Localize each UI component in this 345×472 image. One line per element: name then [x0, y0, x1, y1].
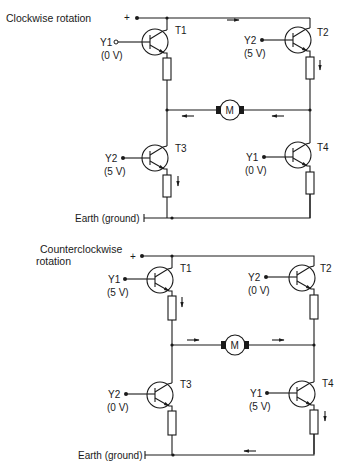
resistor-icon: [168, 411, 176, 435]
t3-label: T3: [180, 379, 192, 390]
input-terminal-icon: [262, 155, 266, 159]
ground-rail: [144, 194, 310, 218]
t3-voltage-label: (5 V): [104, 166, 126, 177]
transistor-symbol-icon: [147, 267, 173, 293]
t3-label: T3: [175, 143, 187, 154]
transistor-symbol-icon: [289, 381, 315, 407]
transistor-symbol-icon: [147, 382, 173, 408]
transistor-t3: T3 Y2 (5 V): [104, 110, 187, 218]
motor: M: [221, 335, 249, 355]
t2-label: T2: [320, 263, 332, 274]
supply-plus-label: +: [130, 251, 136, 262]
resistor-icon: [163, 175, 171, 197]
transistor-t4: T4 Y1 (5 V): [249, 345, 334, 454]
transistor-t1: T1 Y1 (5 V): [107, 256, 192, 345]
resistor-icon: [306, 57, 314, 79]
t4-voltage-label: (0 V): [245, 165, 267, 176]
supply-plus-label: +: [124, 12, 130, 23]
t4-label: T4: [317, 142, 329, 153]
ground-label: Earth (ground): [78, 450, 142, 461]
transistor-t4: T4 Y1 (0 V): [245, 110, 329, 218]
resistor-icon: [310, 410, 318, 434]
ground-rail: [145, 434, 314, 455]
resistor-icon: [310, 295, 318, 319]
supply-rail: [142, 256, 314, 266]
t2-label: T2: [317, 27, 329, 38]
t4-voltage-label: (5 V): [249, 401, 271, 412]
motor-label: M: [231, 340, 239, 351]
t4-label: T4: [322, 378, 334, 389]
t4-input-label: Y1: [246, 152, 259, 163]
t4-input-label: Y1: [250, 388, 263, 399]
t1-label: T1: [175, 25, 187, 36]
h-bridge-diagrams: Clockwise rotation + T1 Y1 (0 V): [0, 0, 345, 472]
ground-label: Earth (ground): [75, 213, 139, 224]
resistor-icon: [168, 296, 176, 320]
t1-voltage-label: (0 V): [101, 50, 123, 61]
input-terminal-icon: [264, 275, 268, 279]
t3-voltage-label: (0 V): [107, 402, 129, 413]
t2-voltage-label: (0 V): [248, 285, 270, 296]
t1-input-label: Y1: [108, 274, 121, 285]
t3-input-label: Y2: [108, 389, 121, 400]
resistor-icon: [306, 172, 314, 194]
t1-label: T1: [180, 263, 192, 274]
transistor-symbol-icon: [285, 142, 311, 168]
input-terminal-icon: [123, 277, 127, 281]
clockwise-title: Clockwise rotation: [6, 12, 91, 24]
motor-label: M: [226, 105, 234, 116]
t2-input-label: Y2: [248, 272, 261, 283]
t1-input-label: Y1: [100, 37, 113, 48]
t3-input-label: Y2: [105, 153, 118, 164]
input-terminal-icon: [121, 156, 125, 160]
transistor-t3: T3 Y2 (0 V): [107, 345, 192, 455]
resistor-icon: [163, 58, 171, 80]
counterclockwise-circuit: Counterclockwise rotation + T1 Y1 (5 V): [36, 243, 334, 461]
counterclockwise-title-line1: Counterclockwise: [40, 243, 122, 255]
input-terminal-icon: [265, 391, 269, 395]
t2-input-label: Y2: [244, 35, 257, 46]
t2-voltage-label: (5 V): [244, 48, 266, 59]
input-terminal-icon: [260, 38, 264, 42]
transistor-t1: T1 Y1 (0 V): [100, 18, 187, 110]
clockwise-circuit: Clockwise rotation + T1 Y1 (0 V): [6, 12, 329, 224]
input-open-terminal-icon: [114, 40, 118, 44]
motor: M: [216, 100, 244, 120]
counterclockwise-title-line2: rotation: [36, 255, 71, 267]
transistor-t2: T2 Y2 (0 V): [248, 263, 332, 345]
input-terminal-icon: [124, 392, 128, 396]
t1-voltage-label: (5 V): [107, 287, 129, 298]
transistor-symbol-icon: [289, 265, 315, 291]
transistor-t2: T2 Y2 (5 V): [244, 18, 329, 110]
